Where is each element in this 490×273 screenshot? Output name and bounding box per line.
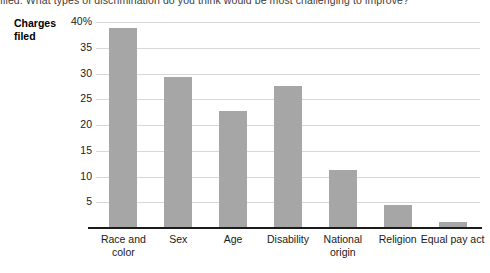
bar bbox=[109, 28, 137, 228]
bar bbox=[164, 77, 192, 228]
gridline bbox=[96, 22, 480, 23]
y-tick-label: 30 bbox=[46, 67, 92, 79]
y-tick-label: 35 bbox=[46, 41, 92, 53]
bar bbox=[274, 86, 302, 228]
x-axis-line bbox=[88, 227, 482, 229]
y-tick-label: 15 bbox=[46, 144, 92, 156]
bar bbox=[219, 111, 247, 228]
caption-text: filed. What types of discrimination do y… bbox=[0, 0, 490, 6]
gridline bbox=[96, 48, 480, 49]
y-axis-tick-labels: 510152025303540% bbox=[44, 22, 92, 228]
bar bbox=[384, 205, 412, 228]
x-axis-tick-labels: Race and colorSexAgeDisabilityNational o… bbox=[96, 233, 480, 269]
plot-area bbox=[96, 22, 480, 228]
x-tick-label: Equal pay act bbox=[419, 233, 486, 246]
gridline bbox=[96, 74, 480, 75]
y-tick-label: 5 bbox=[46, 195, 92, 207]
y-tick-label: 10 bbox=[46, 170, 92, 182]
bar bbox=[329, 170, 357, 228]
y-tick-label: 40% bbox=[46, 15, 92, 27]
y-tick-label: 20 bbox=[46, 118, 92, 130]
y-tick-label: 25 bbox=[46, 92, 92, 104]
